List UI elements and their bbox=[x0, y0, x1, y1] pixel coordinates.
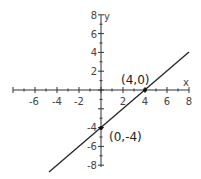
y-tick-label: 4 bbox=[91, 47, 97, 58]
y-axis-label: y bbox=[104, 11, 110, 22]
point-0-neg4 bbox=[99, 126, 103, 130]
line-y-equals-x-minus-4 bbox=[49, 52, 189, 172]
y-tick-label: 2 bbox=[91, 66, 97, 77]
point-4-0 bbox=[143, 88, 147, 92]
x-axis-label: x bbox=[183, 77, 189, 88]
x-tick-label: 6 bbox=[164, 96, 170, 107]
x-tick-label: -2 bbox=[74, 96, 84, 107]
x-tick-label: -6 bbox=[29, 96, 39, 107]
point-label-4-0: (4,0) bbox=[121, 73, 149, 87]
x-tick-label: 4 bbox=[142, 96, 148, 107]
coordinate-plane: -6 -4 -2 2 4 6 8 8 6 4 2 -4 -6 -8 y x (4… bbox=[0, 0, 201, 179]
x-tick-label: 8 bbox=[186, 96, 192, 107]
y-tick-label: 6 bbox=[91, 29, 97, 40]
y-tick-label: -8 bbox=[87, 160, 97, 171]
x-tick-label: 2 bbox=[120, 96, 126, 107]
point-label-0-neg4: (0,-4) bbox=[109, 130, 142, 144]
y-tick-label: 8 bbox=[91, 10, 97, 21]
y-tick-label: -6 bbox=[87, 141, 97, 152]
x-tick-label: -4 bbox=[52, 96, 62, 107]
